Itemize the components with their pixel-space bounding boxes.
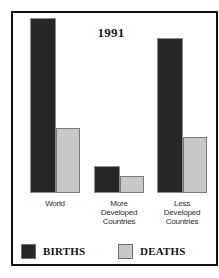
plot-area: WorldMore Developed CountriesLess Develo… — [0, 0, 219, 278]
legend-label-deaths: DEATHS — [140, 245, 186, 257]
bar-births-2 — [157, 38, 183, 193]
legend-item-births: BIRTHS — [21, 240, 85, 262]
bar-births-1 — [94, 166, 120, 193]
bar-deaths-1 — [120, 176, 144, 193]
legend-swatch-deaths-icon — [118, 244, 133, 259]
legend-swatch-births-icon — [21, 244, 36, 259]
legend-label-births: BIRTHS — [43, 245, 85, 257]
category-label-2: Less Developed Countries — [145, 199, 219, 226]
chart-figure: 1991 WorldMore Developed CountriesLess D… — [0, 0, 219, 278]
chart-legend: BIRTHS DEATHS — [13, 240, 216, 264]
bar-deaths-2 — [183, 137, 207, 193]
bar-deaths-0 — [56, 128, 80, 193]
bar-births-0 — [30, 18, 56, 193]
category-label-0: World — [18, 199, 92, 208]
legend-item-deaths: DEATHS — [118, 240, 186, 262]
